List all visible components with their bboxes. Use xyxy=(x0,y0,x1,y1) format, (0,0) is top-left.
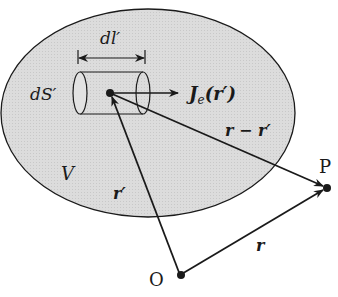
length-label: dl′ xyxy=(100,28,120,48)
volume-region xyxy=(1,9,295,217)
current-density-label: Je(r′) xyxy=(186,83,236,107)
region-label: V xyxy=(61,163,76,184)
diagram-canvas: dl′ dS′ Je(r′) r − r′ V r′ r P O xyxy=(0,0,338,297)
area-label: dS′ xyxy=(30,84,57,104)
point-p-label: P xyxy=(319,156,331,177)
origin-label: O xyxy=(149,269,164,290)
difference-vector-label: r − r′ xyxy=(225,121,271,140)
source-point xyxy=(106,89,114,97)
field-point-p xyxy=(323,184,331,192)
field-position-label: r xyxy=(256,236,266,255)
source-position-label: r′ xyxy=(113,184,126,203)
origin-point-o xyxy=(177,271,185,279)
